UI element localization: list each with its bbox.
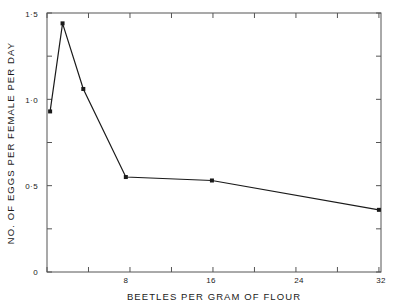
x-axis-ticks-bottom: [47, 267, 379, 272]
chart-figure: 8 16 24 32 0 0·5 1·0 1·5 BEETLES PER GRA…: [0, 0, 396, 307]
y-axis-ticks-right: [376, 13, 381, 272]
data-point-marker: [61, 21, 65, 25]
series-polyline: [50, 23, 379, 209]
data-point-marker: [124, 175, 128, 179]
x-tick-label-16: 16: [206, 276, 216, 285]
plot-frame: [47, 13, 381, 272]
data-point-markers: [48, 21, 381, 211]
y-axis-ticks-left: [47, 13, 52, 272]
data-series-line: [50, 23, 379, 209]
data-point-marker: [377, 208, 381, 212]
x-tick-label-32: 32: [376, 276, 386, 285]
x-tick-label-8: 8: [124, 276, 129, 285]
x-axis-ticks-top: [47, 13, 379, 18]
x-axis-title: BEETLES PER GRAM OF FLOUR: [127, 291, 301, 302]
y-tick-label-1-5: 1·5: [25, 10, 38, 19]
data-point-marker: [210, 178, 214, 182]
plot-box-border: [47, 13, 381, 272]
y-tick-label-1-0: 1·0: [25, 96, 38, 105]
x-tick-label-24: 24: [294, 276, 304, 285]
y-axis-title: NO. OF EGGS PER FEMALE PER DAY: [5, 42, 16, 244]
data-point-marker: [81, 87, 85, 91]
y-tick-label-0-5: 0·5: [25, 182, 38, 191]
y-tick-label-0: 0: [33, 268, 38, 277]
data-point-marker: [48, 109, 52, 113]
line-chart-canvas: 8 16 24 32 0 0·5 1·0 1·5 BEETLES PER GRA…: [0, 0, 396, 307]
